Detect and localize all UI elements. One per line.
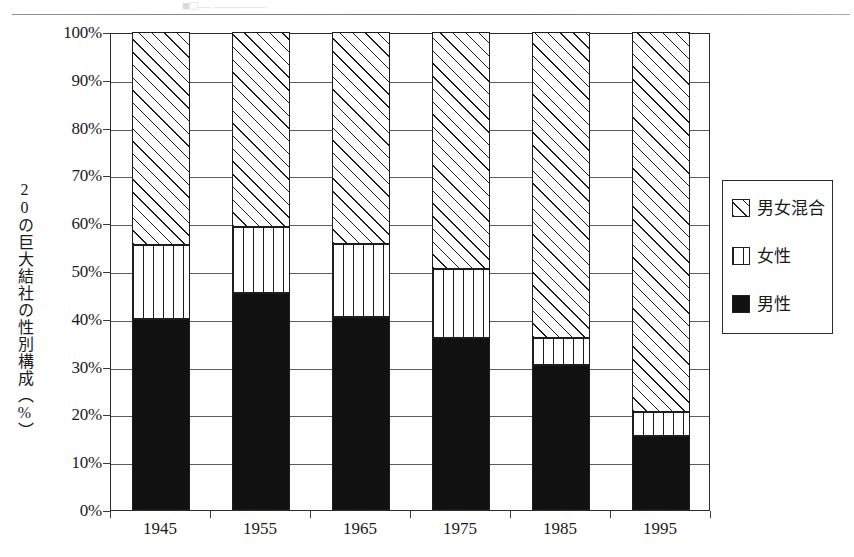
legend-item: 男女混合 bbox=[732, 197, 825, 219]
legend-item: 女性 bbox=[732, 245, 791, 267]
x-tick-label: 1975 bbox=[410, 519, 510, 538]
bar-segment-male bbox=[432, 338, 490, 510]
bar-segment-mixed bbox=[232, 32, 290, 227]
bar-segment-male bbox=[632, 436, 690, 510]
y-tick-label: 20% bbox=[38, 406, 102, 423]
bar-segment-female bbox=[432, 269, 490, 338]
x-tick-mark bbox=[110, 511, 111, 518]
x-tick-label: 1995 bbox=[610, 519, 710, 538]
bar-segment-male bbox=[232, 293, 290, 510]
bar-group bbox=[532, 32, 590, 510]
bar-segment-male bbox=[532, 365, 590, 510]
bar-segment-male bbox=[332, 317, 390, 510]
bar-segment-female bbox=[232, 227, 290, 294]
gridline bbox=[111, 369, 709, 370]
x-tick-label: 1985 bbox=[510, 519, 610, 538]
legend-label: 男性 bbox=[757, 295, 791, 313]
x-tick-label: 1955 bbox=[210, 519, 310, 538]
bar-segment-female bbox=[132, 245, 190, 319]
gridline bbox=[111, 464, 709, 465]
y-tick-label: 0% bbox=[38, 502, 102, 519]
x-tick-label: 1945 bbox=[110, 519, 210, 538]
legend-label: 男女混合 bbox=[757, 199, 825, 217]
bar-group bbox=[632, 32, 690, 510]
bar-segment-mixed bbox=[332, 32, 390, 244]
bar-segment-mixed bbox=[532, 32, 590, 338]
bar-segment-female bbox=[532, 338, 590, 365]
y-tick-label: 100% bbox=[38, 24, 102, 41]
y-tick-label: 30% bbox=[38, 359, 102, 376]
y-axis-title: 20の巨大結社の性別構成（%） bbox=[8, 160, 34, 460]
x-tick-mark bbox=[310, 511, 311, 518]
y-tick-label: 50% bbox=[38, 263, 102, 280]
gridline bbox=[111, 225, 709, 226]
bar-group bbox=[232, 32, 290, 510]
bar-segment-female bbox=[632, 412, 690, 437]
gridline bbox=[111, 416, 709, 417]
legend-label: 女性 bbox=[757, 247, 791, 265]
x-tick-mark bbox=[210, 511, 211, 518]
legend-swatch-vertical-stripes bbox=[732, 247, 750, 265]
bar-group bbox=[132, 32, 190, 510]
plot-area bbox=[110, 33, 710, 511]
bar-group bbox=[432, 32, 490, 510]
y-tick-label: 80% bbox=[38, 120, 102, 137]
y-tick-label: 10% bbox=[38, 454, 102, 471]
x-tick-mark bbox=[410, 511, 411, 518]
bar-segment-mixed bbox=[432, 32, 490, 269]
bar-segment-male bbox=[132, 319, 190, 510]
gridline bbox=[111, 130, 709, 131]
stacked-bar-chart: 20の巨大結社の性別構成（%） 100%90%80%70%60%50%40%30… bbox=[0, 0, 854, 557]
legend: 男女混合女性男性 bbox=[722, 180, 833, 334]
legend-swatch-solid-black bbox=[732, 295, 750, 313]
bar-segment-female bbox=[332, 244, 390, 318]
x-tick-mark bbox=[610, 511, 611, 518]
y-tick-label: 60% bbox=[38, 215, 102, 232]
gridline bbox=[111, 177, 709, 178]
bar-segment-mixed bbox=[632, 32, 690, 412]
gridline bbox=[111, 321, 709, 322]
legend-item: 男性 bbox=[732, 293, 791, 315]
x-tick-mark bbox=[710, 511, 711, 518]
bar-segment-mixed bbox=[132, 32, 190, 245]
y-tick-label: 40% bbox=[38, 311, 102, 328]
gridline bbox=[111, 82, 709, 83]
gridline bbox=[111, 273, 709, 274]
legend-swatch-diagonal-hatch bbox=[732, 199, 750, 217]
y-tick-label: 70% bbox=[38, 167, 102, 184]
x-tick-mark bbox=[510, 511, 511, 518]
y-tick-label: 90% bbox=[38, 72, 102, 89]
x-tick-label: 1965 bbox=[310, 519, 410, 538]
bar-group bbox=[332, 32, 390, 510]
